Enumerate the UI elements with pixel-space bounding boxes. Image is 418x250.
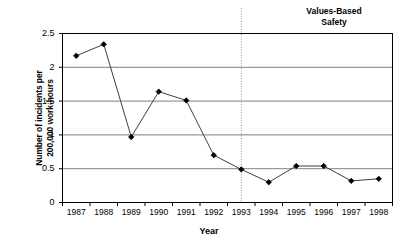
data-series-line <box>76 44 379 182</box>
data-point <box>239 167 244 172</box>
gridlines <box>63 34 393 203</box>
y-tick-label: 2 <box>29 63 55 72</box>
y-axis-ticks <box>59 34 63 203</box>
plot-border <box>63 34 393 203</box>
data-point <box>266 180 271 185</box>
y-tick-label: 0.5 <box>29 164 55 173</box>
chart-figure: Number of incidents per 200,000 work-hou… <box>0 0 418 250</box>
data-point <box>376 176 381 181</box>
data-point <box>156 89 161 94</box>
data-point <box>184 98 189 103</box>
data-series-markers <box>74 42 382 185</box>
x-axis-ticks <box>63 203 393 207</box>
annotation-line-2: Safety <box>286 17 382 28</box>
data-point <box>321 163 326 168</box>
y-tick-label: 2.5 <box>29 29 55 38</box>
series-polyline <box>76 44 379 182</box>
annotation-line-1: Values-Based <box>286 6 382 17</box>
y-tick-label: 1.5 <box>29 97 55 106</box>
y-tick-label: 1 <box>29 130 55 139</box>
data-point <box>294 163 299 168</box>
data-point <box>74 53 79 58</box>
data-point <box>101 42 106 47</box>
x-axis-title: Year <box>0 226 418 236</box>
annotation-values-based-safety: Values-Based Safety <box>286 6 382 27</box>
x-tick-label: 1998 <box>362 208 396 217</box>
data-point <box>211 152 216 157</box>
plot-frame <box>63 34 393 203</box>
data-point <box>349 178 354 183</box>
y-tick-label: 0 <box>29 198 55 207</box>
